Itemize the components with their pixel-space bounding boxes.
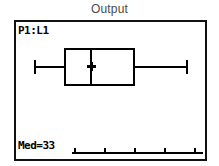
median-readout: Med=33 bbox=[18, 140, 55, 151]
x-axis-tick bbox=[74, 148, 76, 152]
whisker-right-cap bbox=[186, 60, 188, 74]
x-axis-line bbox=[72, 152, 203, 154]
x-axis-tick bbox=[134, 148, 136, 152]
x-axis-tick bbox=[104, 148, 106, 152]
calculator-screen: P1:L1 Med=33 bbox=[14, 20, 207, 161]
whisker-right-line bbox=[135, 66, 188, 68]
interquartile-box bbox=[64, 48, 135, 86]
plot-label: P1:L1 bbox=[18, 25, 49, 36]
page-title: Output bbox=[0, 1, 219, 17]
cursor-vertical-bar bbox=[90, 62, 93, 71]
x-axis-tick bbox=[194, 148, 196, 152]
x-axis-tick bbox=[164, 148, 166, 152]
box-plot-canvas: P1:L1 Med=33 bbox=[16, 22, 205, 159]
whisker-left-line bbox=[34, 66, 64, 68]
whisker-left-cap bbox=[34, 60, 36, 74]
trace-cursor-x-icon[interactable] bbox=[87, 62, 96, 71]
